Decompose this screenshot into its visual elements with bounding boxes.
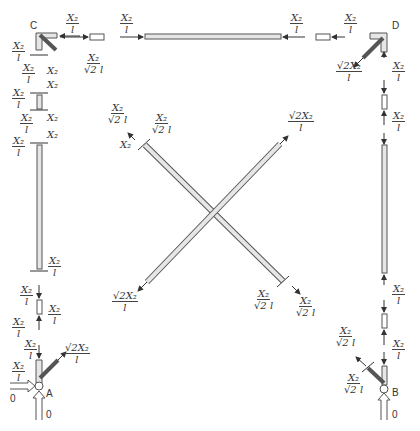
force-label: X₂l — [392, 338, 405, 361]
force-label: X₂l — [392, 60, 405, 83]
node-label-b: B — [392, 387, 399, 398]
force-label: X₂l — [344, 12, 357, 35]
force-label: X₂l — [48, 303, 61, 326]
reaction-b-vertical: 0 — [392, 409, 398, 420]
reaction-a-vertical: 0 — [46, 409, 52, 420]
member-right — [382, 52, 387, 364]
force-label: X₂√2 l — [84, 52, 103, 75]
force-label: X₂l — [120, 12, 133, 35]
force-label: X₂l — [20, 112, 33, 135]
force-label: X₂√2 l — [152, 112, 171, 135]
force-label: X₂l — [20, 284, 33, 307]
force-label: X₂l — [24, 338, 37, 361]
force-label: X₂l — [392, 283, 405, 306]
node-label-c: C — [30, 20, 37, 31]
force-label: X₂√2 l — [344, 372, 363, 395]
force-label: √2X₂l — [64, 342, 90, 365]
force-label: X₂l — [12, 316, 25, 339]
force-label: X₂l — [12, 87, 25, 110]
force-label: X₂l — [12, 40, 25, 63]
node-label-a: A — [46, 388, 53, 399]
force-label: X₂l — [48, 255, 61, 278]
force-label: X₂l — [66, 12, 79, 35]
force-label-x2: X₂ — [47, 66, 58, 76]
force-label-x2: X₂ — [47, 130, 58, 140]
truss-diagram: C D A B 0 0 0 X₂l X₂l X₂l X₂l X₂l X₂l X₂… — [0, 0, 420, 431]
force-label: √2X₂l — [336, 60, 362, 83]
node-label-d: D — [392, 20, 399, 31]
force-label: X₂√2 l — [296, 295, 315, 318]
force-label-x2: X₂ — [120, 140, 131, 150]
force-label: X₂√2 l — [336, 325, 355, 348]
joint-c — [36, 33, 80, 50]
force-label: X₂l — [392, 110, 405, 133]
member-left — [30, 55, 48, 358]
force-label: X₂l — [290, 12, 303, 35]
force-label-x2: X₂ — [47, 80, 58, 90]
force-label-x2: X₂ — [47, 113, 58, 123]
force-label: X₂√2 l — [108, 102, 127, 125]
force-label: X₂l — [12, 135, 25, 158]
force-label: X₂l — [12, 360, 25, 383]
force-label: √2X₂l — [112, 290, 138, 313]
reaction-a-horizontal: 0 — [10, 393, 16, 404]
force-label: X₂l — [22, 62, 35, 85]
force-label: √2X₂l — [288, 110, 314, 133]
force-label: X₂√2 l — [254, 288, 273, 311]
